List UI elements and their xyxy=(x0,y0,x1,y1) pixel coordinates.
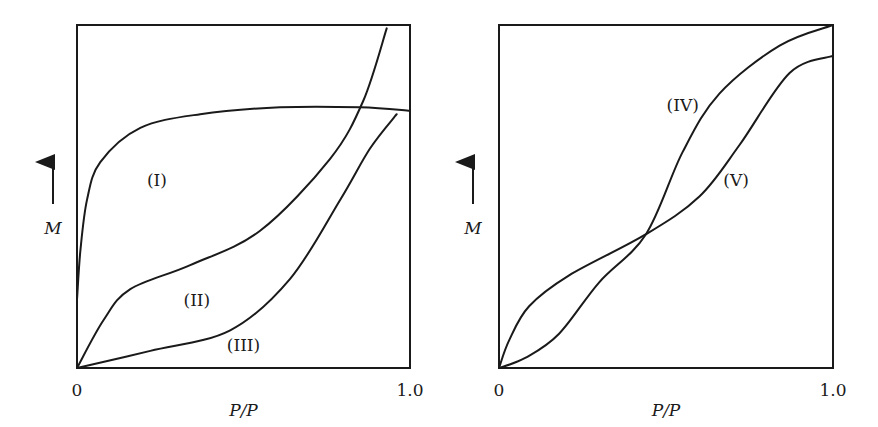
y-axis-label: M xyxy=(463,218,482,238)
curve-label: (V) xyxy=(723,170,749,190)
left-plot: (I)(II)(III)01.0P/PM xyxy=(43,25,423,420)
x-tick-label: 1.0 xyxy=(396,380,423,400)
curve-label: (III) xyxy=(227,335,260,355)
plot-frame xyxy=(499,25,833,368)
chart-canvas: (I)(II)(III)01.0P/PM (IV)(V)01.0P/PM xyxy=(0,0,878,427)
series-line-iv xyxy=(499,25,833,368)
curve-label: (II) xyxy=(184,290,211,310)
series-line-i xyxy=(77,107,410,300)
x-tick-label: 1.0 xyxy=(819,380,846,400)
x-tick-label: 0 xyxy=(72,380,83,400)
y-axis-label: M xyxy=(43,218,62,238)
x-tick-label: 0 xyxy=(494,380,505,400)
right-plot: (IV)(V)01.0P/PM xyxy=(463,25,846,420)
x-axis-label: P/P xyxy=(228,400,258,420)
x-axis-label: P/P xyxy=(651,400,681,420)
series-line-iii xyxy=(77,114,397,368)
curve-label: (IV) xyxy=(667,95,699,115)
curve-label: (I) xyxy=(147,170,167,190)
plot-frame xyxy=(77,25,410,368)
